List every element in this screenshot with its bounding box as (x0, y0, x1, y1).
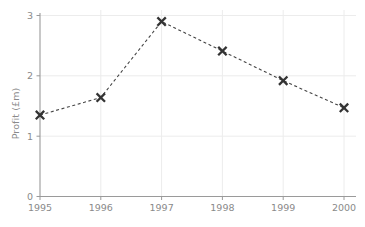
chart-container: 3 2 1 0 1995 1996 1997 1998 1999 2000 Pr… (0, 0, 365, 227)
ytick-label-2: 2 (27, 70, 33, 81)
ytick-label-0: 0 (27, 191, 33, 202)
grid-lines (40, 10, 356, 197)
xtick-label-1997: 1997 (150, 202, 174, 213)
ytick-label-3: 3 (27, 10, 33, 21)
profit-line-chart: 3 2 1 0 1995 1996 1997 1998 1999 2000 (0, 0, 365, 227)
ytick-label-1: 1 (27, 131, 33, 142)
xtick-label-2000: 2000 (332, 202, 356, 213)
xtick-label-1999: 1999 (271, 202, 295, 213)
y-axis-ticks: 3 2 1 0 (27, 10, 40, 202)
x-axis-ticks: 1995 1996 1997 1998 1999 2000 (28, 197, 356, 214)
xtick-label-1998: 1998 (210, 202, 234, 213)
axis-spines (37, 13, 356, 197)
series-markers-profit (36, 17, 348, 119)
series-line-profit (40, 22, 344, 116)
xtick-label-1996: 1996 (89, 202, 113, 213)
xtick-label-1995: 1995 (28, 202, 52, 213)
